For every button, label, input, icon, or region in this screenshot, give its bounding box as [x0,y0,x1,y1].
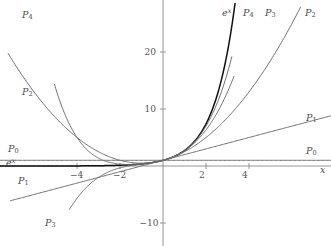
x-tick-label--2: −2 [113,170,126,180]
curve-label-P4-right: P4 [243,8,254,19]
curve-P2 [8,7,300,163]
curve-label-ex-left: ex [6,158,15,168]
y-tick-label-10: 10 [145,104,156,114]
curve-label-P1-right: P1 [306,113,317,124]
x-tick-label-2: 2 [199,170,205,180]
y-tick-label-20: 20 [145,47,156,57]
curve-label-P0-left: P0 [8,144,19,155]
curve-label-P3-right: P3 [265,8,276,19]
curve-label-P3-left: P3 [45,218,56,229]
curve-label-P4-left: P4 [22,10,33,21]
curve-label-xaxis-right: x [320,165,325,175]
y-tick-label--10: −10 [139,218,158,228]
curve-label-P0-right: P0 [306,146,317,157]
plot-canvas [0,0,331,246]
curve-label-P2-left: P2 [22,87,33,98]
curve-P3 [69,76,233,209]
curve-label-P2-right: P2 [305,8,316,19]
taylor-polynomial-plot: −4−224−101020P4P2P0exP1P3exP4P3P2P1P0x [0,0,331,246]
curve-label-P1-left: P1 [18,176,29,187]
curves-group [0,4,331,210]
curve-P4 [54,57,231,165]
x-tick-label--4: −4 [70,170,83,180]
x-tick-label-4: 4 [242,170,248,180]
curve-label-ex-right: ex [222,8,231,18]
